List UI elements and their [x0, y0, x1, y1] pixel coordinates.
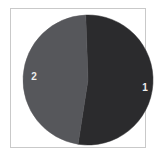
- pie-slice-label-2: 2: [31, 71, 37, 82]
- pie-chart-figure: 1 2: [0, 0, 168, 160]
- pie-slice-1[interactable]: [78, 15, 153, 145]
- pie-chart-canvas: 1 2: [0, 0, 168, 160]
- pie-slice-label-1: 1: [142, 82, 148, 93]
